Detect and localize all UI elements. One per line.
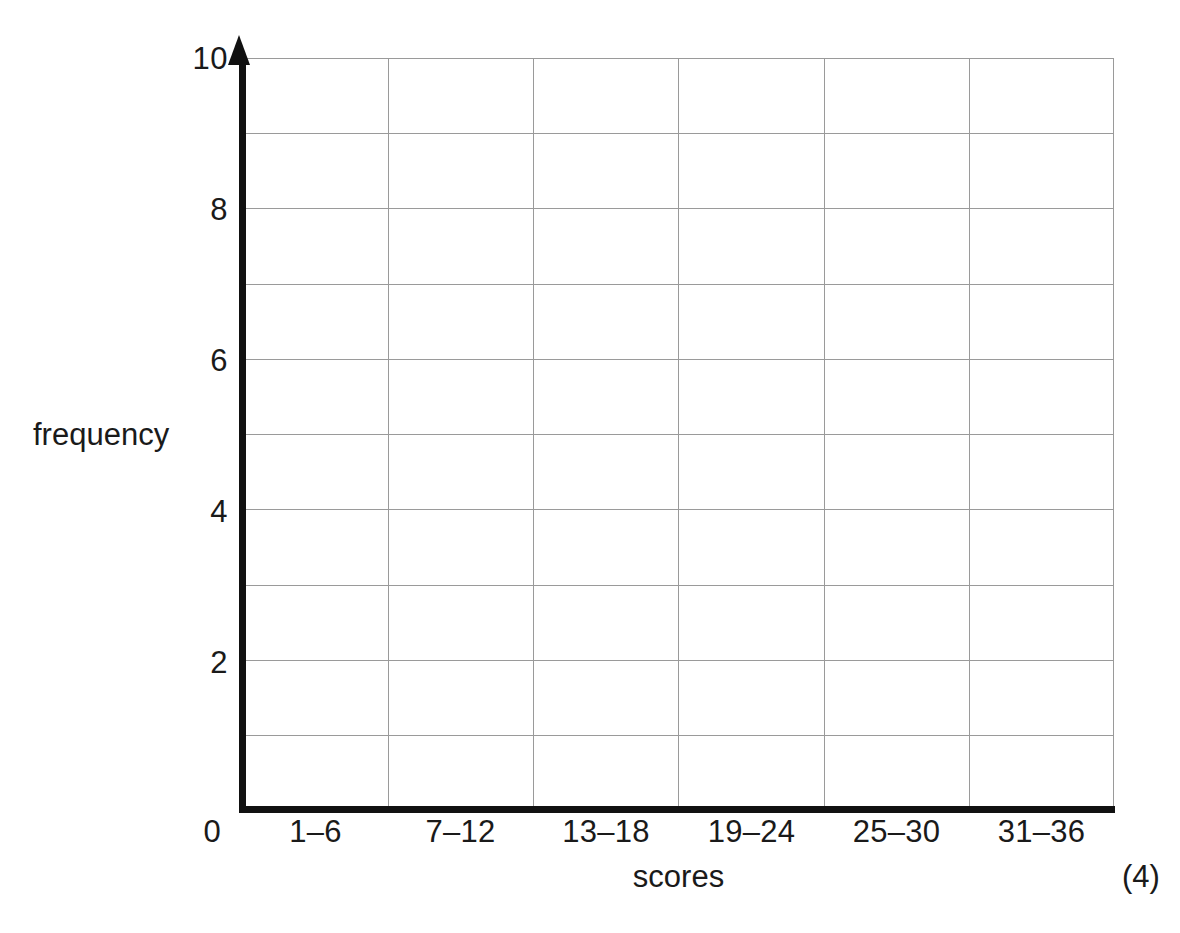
x-axis-title: scores: [243, 860, 1114, 894]
y-axis-title: frequency: [33, 418, 169, 452]
y-tick-label-4: 4: [168, 496, 228, 527]
y-axis-line: [239, 58, 246, 813]
y-tick-label-10: 10: [168, 43, 228, 74]
marks-annotation: (4): [1122, 860, 1160, 894]
origin-tick-label-0: 0: [182, 815, 242, 849]
x-tick-label-4: 19–24: [679, 815, 824, 849]
y-tick-label-6: 6: [168, 345, 228, 376]
gridline-vertical-4: [824, 58, 825, 810]
x-tick-label-3: 13–18: [533, 815, 679, 849]
plot-area: [243, 58, 1114, 810]
y-tick-label-8: 8: [168, 194, 228, 225]
x-tick-label-6: 31–36: [969, 815, 1114, 849]
gridline-vertical-5: [969, 58, 970, 810]
x-tick-label-1: 1–6: [243, 815, 388, 849]
y-axis-tick-labels: 10 8 6 4 2: [168, 0, 228, 933]
gridline-vertical-6: [1113, 58, 1114, 810]
gridline-vertical-3: [678, 58, 679, 810]
y-tick-label-2: 2: [168, 647, 228, 678]
x-axis-line: [239, 806, 1115, 813]
gridline-vertical-1: [388, 58, 389, 810]
x-tick-label-2: 7–12: [388, 815, 533, 849]
y-axis-arrow-icon: [228, 35, 250, 65]
gridline-vertical-2: [533, 58, 534, 810]
x-tick-label-5: 25–30: [824, 815, 969, 849]
frequency-diagram-grid: 10 8 6 4 2 0 1–6 7–12 13–18 19–24 25–30 …: [0, 0, 1180, 933]
